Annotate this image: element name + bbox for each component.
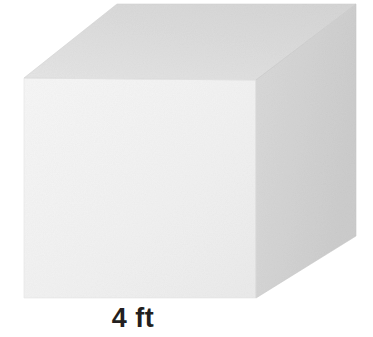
cube-front-face: [24, 78, 256, 298]
cube-illustration: [0, 0, 373, 337]
cube-figure: 4 ft: [0, 0, 373, 337]
edge-length-label: 4 ft: [0, 303, 266, 333]
